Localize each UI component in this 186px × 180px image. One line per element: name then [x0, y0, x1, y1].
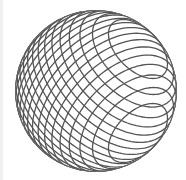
lattice-line	[93, 13, 174, 94]
lattice-line	[93, 88, 174, 169]
wireframe-sphere	[0, 0, 186, 180]
